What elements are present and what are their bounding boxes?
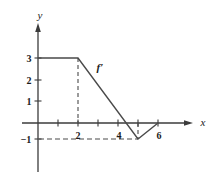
x-axis-label: x bbox=[200, 116, 206, 128]
x-axis bbox=[22, 120, 193, 125]
x-tick-label-4: 4 bbox=[117, 130, 122, 141]
y-tick-label-neg1: −1 bbox=[21, 134, 32, 145]
x-tick-label-6: 6 bbox=[157, 130, 162, 141]
y-tick-label-2: 2 bbox=[27, 75, 32, 86]
x-tick-label-2: 2 bbox=[76, 130, 81, 141]
y-axis-label: y bbox=[37, 9, 43, 21]
curve-label-f-prime: f′ bbox=[97, 61, 104, 73]
x-axis-arrowhead bbox=[184, 120, 193, 125]
guide-lines bbox=[39, 58, 138, 139]
y-axis-arrowhead bbox=[35, 23, 41, 32]
plot-canvas: y x f′ 3 2 1 −1 2 4 6 bbox=[0, 0, 215, 182]
y-tick-label-1: 1 bbox=[27, 96, 32, 107]
y-axis bbox=[35, 23, 41, 172]
graph-figure: y x f′ 3 2 1 −1 2 4 6 bbox=[0, 0, 215, 182]
y-tick-label-3: 3 bbox=[27, 53, 32, 64]
